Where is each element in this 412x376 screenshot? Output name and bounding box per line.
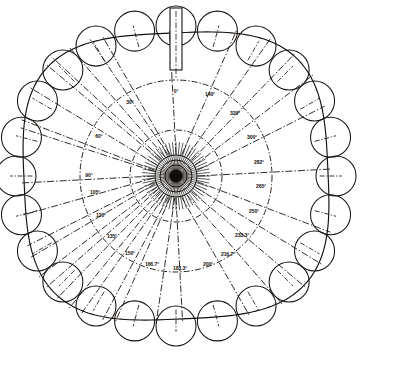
angle-label-250: 250° [249,208,259,214]
roller-centre-tick [32,243,51,254]
angle-label-200: 200° [203,261,213,267]
roller-circle [17,231,57,271]
radial-spoke-180deg [176,198,183,322]
roller-circle [115,11,155,51]
roller-centre-tick [278,66,294,82]
radial-spoke-217deg [69,194,163,308]
radial-spoke-135deg [192,192,307,288]
roller-centre-tick [213,305,219,326]
angle-label-216.7: 216.7° [221,251,235,257]
roller-centre-tick [133,26,139,47]
roller-centre-tick [133,305,139,326]
roller-circle [76,26,116,66]
roller-circle [197,11,237,51]
radial-spoke-233deg [46,189,159,288]
hub-core [170,170,183,183]
roller-centre-tick [278,270,294,286]
radial-spoke-225deg [56,192,160,300]
angle-label-90: 90° [85,172,92,178]
polar-diagram-canvas: 0°30°60°90°105°120°135°150°166.7°183.3°2… [0,0,412,376]
angle-label-140: 140° [205,91,215,97]
angle-label-265: 265° [256,183,266,189]
roller-circle [236,26,276,66]
roller-circle [43,262,83,302]
angle-label-233.3: 233.3° [235,232,249,238]
radial-spoke-90deg [198,169,331,176]
radial-spoke-183deg [156,198,175,323]
angle-label-320: 320° [230,110,240,116]
probe-shaft-group [170,8,182,78]
roller-centre-tick [248,292,259,311]
angle-label-135: 135° [107,233,117,239]
angle-label-166.7: 166.7° [145,261,159,267]
angle-label-300: 300° [247,134,257,140]
radial-spoke-60deg [195,75,313,165]
radial-spoke-165deg [182,197,250,315]
angle-label-120: 120° [96,212,106,218]
angle-label-105: 105° [90,189,100,195]
angle-label-60: 60° [95,133,102,139]
radial-spoke-345deg [103,36,171,154]
angle-label-0: 0° [174,88,179,94]
roller-circle [311,117,351,157]
angle-label-282: 282° [254,159,264,165]
roller-circle [236,286,276,326]
radial-spoke-45deg [192,53,296,161]
roller-centre-tick [300,243,319,254]
radial-spoke-285deg [22,120,155,171]
roller-circle [197,301,237,341]
roller-circle [295,231,335,271]
roller-centre-tick [315,211,336,217]
roller-circle [269,50,309,90]
angle-label-150: 150° [125,250,135,256]
angle-label-30: 30° [126,99,133,105]
roller-circle [17,81,57,121]
roller-centre-tick [300,98,319,109]
roller-circle [311,195,351,235]
roller-circle [1,117,41,157]
roller-centre-tick [32,98,51,109]
angle-label-183.3: 183.3° [173,265,187,271]
roller-circle [115,301,155,341]
roller-centre-tick [59,66,75,82]
roller-circle [295,81,335,121]
roller-circle [1,195,41,235]
roller-centre-tick [59,270,75,286]
radial-spoke-315deg [46,64,161,160]
diagram-root: 0°30°60°90°105°120°135°150°166.7°183.3°2… [0,0,412,376]
roller-centre-tick [16,136,37,142]
roller-centre-tick [213,26,219,47]
